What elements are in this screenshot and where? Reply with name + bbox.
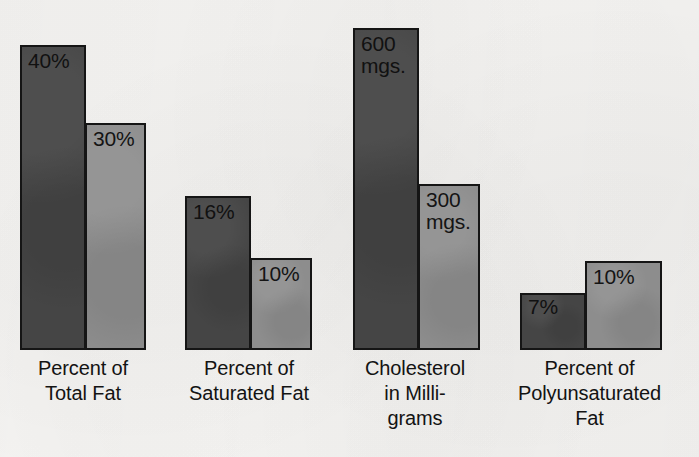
bar-cholesterol-typical: 600 mgs. [353, 28, 419, 350]
bar-value-label: 7% [528, 296, 582, 318]
bar-value-label: 10% [258, 263, 308, 285]
category-label-saturated-fat: Percent of Saturated Fat [164, 356, 334, 406]
category-label-polyunsaturated-fat: Percent of Polyunsaturated Fat [487, 356, 692, 431]
bar-value-label: 10% [593, 266, 658, 288]
bar-polyunsaturated-fat-typical: 7% [520, 293, 586, 350]
category-label-cholesterol: Cholesterol in Milli- grams [340, 356, 490, 431]
bar-polyunsaturated-fat-recommended: 10% [585, 261, 662, 350]
bar-value-label: 300 mgs. [426, 189, 476, 233]
chart-plot-area: 40% 30% 16% 10% 600 mgs. 300 mgs. 7% 10%… [0, 0, 699, 457]
bar-value-label: 30% [93, 128, 142, 150]
bar-value-label: 600 mgs. [361, 33, 415, 77]
bar-saturated-fat-recommended: 10% [250, 258, 312, 350]
bar-total-fat-recommended: 30% [85, 123, 146, 350]
bar-value-label: 16% [193, 201, 247, 223]
category-label-total-fat: Percent of Total Fat [8, 356, 158, 406]
nutrition-bar-chart: 40% 30% 16% 10% 600 mgs. 300 mgs. 7% 10%… [0, 0, 699, 457]
bar-cholesterol-recommended: 300 mgs. [418, 184, 480, 350]
bar-total-fat-typical: 40% [20, 45, 86, 350]
bar-value-label: 40% [28, 50, 82, 72]
bar-saturated-fat-typical: 16% [185, 196, 251, 350]
